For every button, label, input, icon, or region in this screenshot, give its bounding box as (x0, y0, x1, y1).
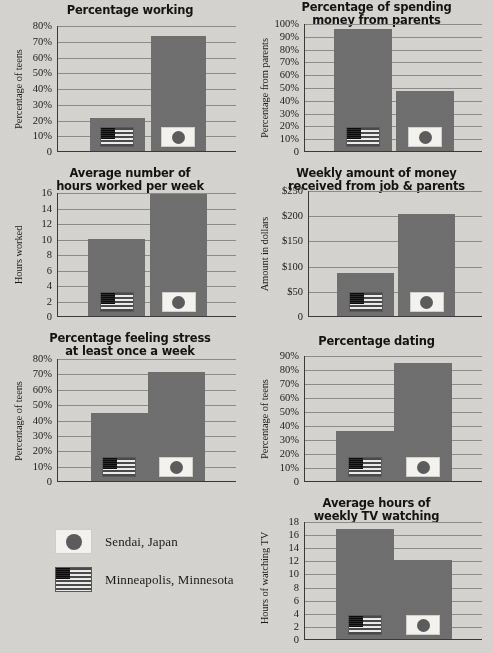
y-axis-ticks: 181614121086420 (246, 522, 303, 640)
chart-cell-weekly-money-received: Weekly amount of moneyreceived from job … (246, 165, 493, 330)
y-axis-tick-label: $100 (282, 261, 303, 272)
y-axis-tick-label: 30% (280, 435, 299, 446)
y-axis-tick-label: 80% (280, 365, 299, 376)
bar-sendai (394, 363, 452, 481)
chart-title: Percentage working (18, 4, 242, 17)
y-axis-tick-label: 60% (33, 385, 52, 396)
y-axis-tick-label: 90% (280, 351, 299, 362)
bar-sendai (150, 194, 207, 316)
bar-minneapolis (91, 413, 148, 481)
legend-label-usa: Minneapolis, Minnesota (105, 572, 234, 588)
y-axis-tick-label: 0 (47, 477, 52, 488)
y-axis-tick-label: 40% (33, 415, 52, 426)
bar-sendai (394, 560, 452, 639)
japan-flag-icon (55, 529, 92, 554)
y-axis-tick-label: 2 (294, 622, 299, 633)
bar-sendai (151, 36, 206, 151)
japan-flag-icon (161, 127, 195, 147)
y-axis-tick-label: 60% (33, 52, 52, 63)
y-axis-tick-label: $150 (282, 236, 303, 247)
japan-flag-icon (159, 457, 193, 477)
us-flag-icon (346, 127, 380, 147)
chart-percentage-dating: Percentage datingPercentage of teens90%8… (246, 330, 493, 495)
y-axis-tick-label: 18 (289, 517, 300, 528)
y-axis-tick-label: 12 (42, 219, 53, 230)
plot-area (304, 24, 482, 152)
y-axis-tick-label: 10 (42, 234, 53, 245)
chart-hours-worked-per-week: Average number ofhours worked per weekHo… (0, 165, 246, 330)
bar-minneapolis (88, 239, 145, 316)
y-axis-tick-label: 0 (47, 312, 52, 323)
y-axis-tick-label: 16 (289, 530, 300, 541)
y-axis-tick-label: 10 (289, 569, 300, 580)
bar-minneapolis (336, 529, 394, 639)
y-axis-tick-label: $50 (287, 287, 303, 298)
y-axis-tick-label: 80% (33, 21, 52, 32)
us-flag-icon (349, 292, 383, 312)
y-axis-tick-label: 10% (33, 461, 52, 472)
chart-cell-spending-money-from-parents: Percentage of spendingmoney from parents… (246, 0, 493, 165)
y-axis-tick-label: 60% (280, 393, 299, 404)
chart-spending-money-from-parents: Percentage of spendingmoney from parents… (246, 0, 493, 165)
y-axis-tick-label: 6 (294, 595, 299, 606)
y-axis-tick-label: 6 (47, 265, 52, 276)
y-axis-tick-label: 0 (298, 312, 303, 323)
legend-cell: Sendai, Japan Minneapolis, Minnesota (0, 495, 246, 653)
y-axis-tick-label: 30% (33, 431, 52, 442)
y-axis-tick-label: 40% (33, 84, 52, 95)
plot-area (308, 191, 482, 317)
bar-sendai (148, 372, 205, 481)
y-axis-tick-label: 30% (280, 108, 299, 119)
bar-sendai (398, 214, 455, 316)
y-axis-tick-label: 0 (47, 147, 52, 158)
plot-area (57, 26, 236, 152)
y-axis-tick-label: 16 (42, 188, 53, 199)
y-axis-tick-label: 30% (33, 100, 52, 111)
y-axis-ticks: 80%70%60%50%40%30%20%10%0 (0, 359, 56, 482)
y-axis-tick-label: 20% (280, 449, 299, 460)
y-axis-tick-label: 60% (280, 70, 299, 81)
us-flag-icon (102, 457, 136, 477)
chart-cell-hours-worked-per-week: Average number ofhours worked per weekHo… (0, 165, 246, 330)
bars (58, 193, 236, 316)
chart-legend: Sendai, Japan Minneapolis, Minnesota (55, 529, 234, 605)
y-axis-tick-label: 80% (280, 44, 299, 55)
bars (305, 522, 482, 639)
y-axis-tick-label: 100% (275, 19, 300, 30)
y-axis-tick-label: 70% (33, 37, 52, 48)
y-axis-tick-label: 0 (294, 147, 299, 158)
chart-cell-percentage-working: Percentage workingPercentage of teens80%… (0, 0, 246, 165)
legend-item-japan: Sendai, Japan (55, 529, 234, 554)
y-axis-tick-label: 40% (280, 421, 299, 432)
chart-cell-feeling-stress: Percentage feeling stressat least once a… (0, 330, 246, 495)
y-axis-tick-label: 80% (33, 354, 52, 365)
y-axis-ticks: 100%90%80%70%60%50%40%30%20%10%0 (246, 24, 303, 152)
japan-flag-icon (406, 615, 440, 635)
y-axis-ticks: $250$200$150$100$500 (246, 191, 307, 317)
y-axis-tick-label: 10% (280, 134, 299, 145)
y-axis-tick-label: 0 (294, 477, 299, 488)
plot-area (57, 193, 236, 317)
chart-weekly-money-received: Weekly amount of moneyreceived from job … (246, 165, 493, 330)
bar-sendai (396, 91, 454, 151)
bars (58, 359, 236, 481)
chart-feeling-stress: Percentage feeling stressat least once a… (0, 330, 246, 495)
y-axis-tick-label: 70% (33, 369, 52, 380)
y-axis-tick-label: 14 (289, 543, 300, 554)
chart-title: Percentage dating (264, 335, 489, 348)
bars (309, 191, 482, 316)
y-axis-tick-label: 10% (280, 463, 299, 474)
bars (58, 26, 236, 151)
chart-weekly-tv-watching: Average hours ofweekly TV watchingHours … (246, 495, 493, 653)
y-axis-tick-label: 50% (280, 407, 299, 418)
us-flag-icon (348, 457, 382, 477)
japan-flag-icon (408, 127, 442, 147)
y-axis-tick-label: 70% (280, 57, 299, 68)
plot-area (57, 359, 236, 482)
plot-area (304, 356, 482, 482)
chart-cell-percentage-dating: Percentage datingPercentage of teens90%8… (246, 330, 493, 495)
chart-grid: Percentage workingPercentage of teens80%… (0, 0, 493, 653)
y-axis-tick-label: 70% (280, 379, 299, 390)
chart-cell-weekly-tv-watching: Average hours ofweekly TV watchingHours … (246, 495, 493, 653)
y-axis-tick-label: 20% (33, 446, 52, 457)
